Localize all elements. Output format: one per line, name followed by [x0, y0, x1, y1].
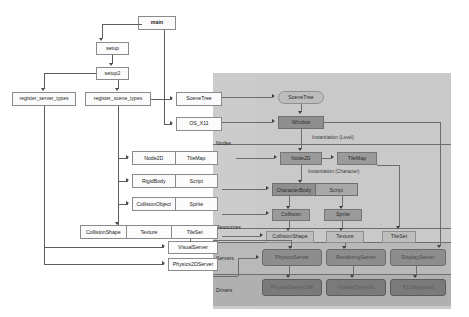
- arrow-runtime-window-in: [272, 119, 275, 123]
- edge-servers-lane-h: [238, 258, 256, 259]
- edge-servers-lane-v: [238, 258, 239, 276]
- node-osx11[interactable]: OS_X11: [176, 117, 222, 131]
- node-runtime-collision[interactable]: Collision: [272, 209, 310, 221]
- arrow-row1: [126, 155, 129, 159]
- arrow-setup-setup2: [109, 63, 113, 66]
- annotation-instantiation-level: Instantiation (Level): [312, 135, 354, 140]
- arrow-row3: [126, 201, 129, 205]
- node-runtime-texture[interactable]: Texture: [326, 231, 364, 243]
- edge-shape-physics-h: [213, 240, 291, 241]
- arrow-runtime-scenetree-in: [272, 94, 275, 98]
- node-physics2dserver[interactable]: Physics2DServer: [168, 258, 218, 271]
- cell-runtime-script: Script: [316, 184, 358, 195]
- arrow-bus-displayserver: [437, 245, 441, 248]
- node-physicsserver[interactable]: PhysicsServer: [262, 249, 322, 266]
- edge-scenetypes-scenetree: [151, 99, 172, 100]
- node-runtime-tilemap[interactable]: TileMap: [337, 152, 377, 165]
- arrow-scenetree-in: [170, 96, 173, 100]
- edge-nodes-lane-node2d: [236, 158, 274, 159]
- edge-servertypes-physics-h: [44, 264, 164, 265]
- edge-resources-lane-shape: [222, 236, 260, 237]
- node-runtime-collisionshape[interactable]: CollisionShape: [266, 231, 314, 243]
- edge-servers-lane-feed: [213, 276, 238, 277]
- cell-node2d: Node2D: [133, 152, 176, 164]
- node-driver-physics[interactable]: PhysicsServerSW: [262, 279, 322, 296]
- lane-label-drivers: Drivers: [216, 287, 232, 293]
- arrow-tilemap-tileset: [396, 226, 400, 229]
- split-row-node2d-tilemap[interactable]: Node2D TileMap: [132, 151, 218, 165]
- arrow-row2: [126, 178, 129, 182]
- arrow-setup2-server: [41, 88, 45, 91]
- arrow-runtime-node2d-in: [274, 155, 277, 159]
- node-runtime-scenetree[interactable]: SceneTree: [278, 91, 324, 104]
- node-driver-display[interactable]: X11/Wayland: [390, 279, 446, 296]
- edge-servertypes-spine: [44, 106, 45, 247]
- edge-scenetypes-spine: [118, 106, 119, 225]
- arrow-physics-driver: [286, 275, 290, 278]
- edge-reg-collision: [222, 214, 266, 215]
- cell-rigidbody: RigidBody: [133, 175, 176, 187]
- node-visualserver[interactable]: VisualServer: [168, 241, 218, 254]
- node-runtime-window[interactable]: Window: [278, 116, 324, 129]
- edge-servertypes-visual-h: [44, 247, 164, 248]
- cell-script: Script: [176, 175, 218, 187]
- arrow-visualserver-in: [162, 244, 165, 248]
- node-setup[interactable]: setup: [96, 42, 129, 55]
- edge-main-setup-h: [102, 24, 142, 25]
- diagram-canvas: Nodes Resources Servers Drivers main set…: [0, 0, 469, 317]
- edge-node2d-tilemap: [322, 158, 331, 159]
- edge-tilemap-tileset-v: [399, 165, 400, 227]
- cell-runtime-characterbody: CharacterBody: [273, 184, 316, 195]
- split-row-rigidbody-script[interactable]: RigidBody Script: [132, 174, 218, 188]
- split-row-collisionobject-sprite[interactable]: CollisionObject Sprite: [132, 197, 218, 211]
- arrow-physicsserver-in: [162, 261, 165, 265]
- node-register-scene-types[interactable]: register_scene_types: [85, 92, 151, 106]
- cell-tilemap: TileMap: [176, 152, 218, 164]
- node-runtime-sprite[interactable]: Sprite: [324, 209, 362, 221]
- node-register-server-types[interactable]: register_server_types: [12, 92, 76, 106]
- arrow-runtime-collisionshape-in: [260, 233, 263, 237]
- arrow-runtime-collision-in: [266, 211, 269, 215]
- arrow-main-setup: [99, 38, 103, 41]
- edge-main-bus-v: [164, 30, 165, 124]
- cell-sprite: Sprite: [176, 198, 218, 210]
- edge-reg-scenetree-runtime: [222, 97, 272, 98]
- edge-window-bus-h: [324, 122, 440, 123]
- edge-setup2-server-h: [44, 73, 96, 74]
- lane-label-nodes: Nodes: [216, 140, 231, 146]
- split-runtime-characterbody-script[interactable]: CharacterBody Script: [272, 183, 358, 196]
- edge-tilemap-tileset-h: [377, 165, 399, 166]
- node-displayserver[interactable]: DisplayServer: [390, 249, 446, 266]
- node-driver-rendering[interactable]: Vulkan/OpenGL: [326, 279, 386, 296]
- arrow-setup2-scene: [115, 88, 119, 91]
- arrow-runtime-characterbody-in: [266, 186, 269, 190]
- cell-texture: Texture: [127, 226, 173, 238]
- edge-servertypes-drop: [44, 247, 45, 264]
- node-setup2[interactable]: setup2: [96, 67, 129, 80]
- edge-reg-characterbody: [222, 189, 266, 190]
- lane-label-resources: Resources: [216, 224, 241, 230]
- lane-rule-resources: [213, 228, 451, 229]
- annotation-instantiation-character: Instantiation (Character): [308, 169, 359, 174]
- cell-tileset: TileSet: [172, 226, 217, 238]
- arrow-scenetree-window: [298, 111, 302, 114]
- arrow-rendering-driver: [350, 275, 354, 278]
- arrow-osx11-in: [170, 121, 173, 125]
- edge-window-node2d: [301, 129, 302, 149]
- cell-collisionobject: CollisionObject: [133, 198, 176, 210]
- node-main[interactable]: main: [138, 16, 176, 30]
- edge-window-bus-v: [440, 122, 441, 246]
- node-runtime-tileset[interactable]: TileSet: [382, 231, 416, 243]
- node-renderingserver[interactable]: RenderingServer: [326, 249, 386, 266]
- arrow-display-driver: [413, 275, 417, 278]
- node-runtime-node2d[interactable]: Node2D: [280, 152, 322, 165]
- cell-collisionshape: CollisionShape: [81, 226, 127, 238]
- edge-tileset-visual-v: [190, 239, 191, 242]
- edge-main-setup-v: [102, 24, 103, 38]
- edge-setup2-server-v: [44, 73, 45, 89]
- arrow-window-node2d: [298, 148, 302, 151]
- arrow-node2d-tilemap: [331, 155, 334, 159]
- edge-reg-window-runtime: [222, 122, 272, 123]
- split-row-resources[interactable]: CollisionShape Texture TileSet: [80, 225, 218, 239]
- node-scenetree-registered[interactable]: SceneTree: [176, 92, 222, 106]
